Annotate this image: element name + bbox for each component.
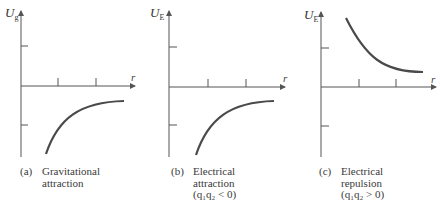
- panel-b-x-label: r: [283, 72, 287, 84]
- panel-c-x-label: r: [431, 73, 435, 85]
- panel-a-caption: (a)Gravitational attraction: [20, 166, 100, 189]
- panel-c-caption: (c)Electrical repulsion (q₁q₂ > 0): [319, 166, 384, 201]
- panel-c-curve: [346, 18, 423, 72]
- panel-a-y-label: Ug: [5, 5, 18, 22]
- panel-a-curve: [46, 101, 124, 154]
- panel-b-curve: [196, 101, 274, 155]
- panel-b-caption: (b)Electrical attraction (q₁q₂ < 0): [171, 166, 236, 201]
- panel-b-axes: [169, 11, 285, 157]
- panel-a-axes: [21, 11, 135, 157]
- panel-c-axes: [321, 12, 436, 157]
- panel-a-x-label: r: [131, 71, 135, 83]
- panel-b-y-label: UE: [150, 5, 164, 22]
- panel-c-y-label: UE: [304, 7, 318, 24]
